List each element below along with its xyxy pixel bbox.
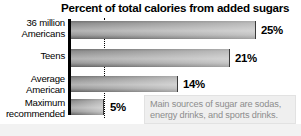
category-label-line1: 36 million — [0, 18, 65, 29]
bar-value-label: 5% — [110, 101, 126, 113]
bar-value-label: 21% — [235, 52, 257, 64]
category-label: Average American — [0, 74, 65, 95]
chart-title: Percent of total calories from added sug… — [61, 1, 299, 16]
annotation-note-line1: Main sources of sugar are sodas, — [150, 99, 290, 110]
category-label-line2: recommended — [0, 109, 65, 120]
category-label-line1: Maximum — [0, 98, 65, 109]
bar-row: Teens 21% — [0, 45, 301, 71]
category-label-line1: Average — [0, 74, 65, 85]
annotation-note: Main sources of sugar are sodas, energy … — [144, 95, 296, 124]
bar-value-label: 25% — [261, 24, 283, 36]
bar-value-label: 14% — [183, 78, 205, 90]
bar-row: 36 million Americans 25% — [0, 17, 301, 43]
bar — [71, 49, 230, 67]
bar — [71, 21, 256, 39]
category-label-line1: Teens — [0, 51, 65, 62]
category-label: 36 million Americans — [0, 18, 65, 39]
bottom-strip — [0, 124, 301, 136]
bar — [71, 76, 178, 92]
category-label: Maximum recommended — [0, 98, 65, 119]
bar — [71, 99, 104, 115]
category-label: Teens — [0, 51, 65, 62]
chart-container: Percent of total calories from added sug… — [0, 0, 301, 136]
annotation-note-line2: energy drinks, and sports drinks. — [150, 110, 290, 121]
category-label-line2: American — [0, 85, 65, 96]
bar-row: Average American 14% — [0, 73, 301, 97]
category-label-line2: Americans — [0, 29, 65, 40]
